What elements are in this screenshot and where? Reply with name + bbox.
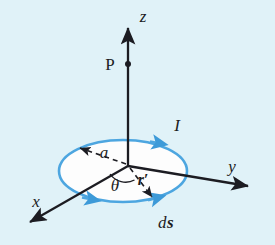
z-axis-label: z [139,7,147,26]
diagram-background [0,0,275,245]
theta-label: θ [111,176,119,195]
r-prime-label: r′ [138,171,149,188]
point-p-label: P [105,55,114,74]
y-axis-label: y [226,157,236,176]
ds-label-d: d [158,213,167,232]
ds-label-s: s [166,213,174,232]
x-axis-label: x [31,192,40,211]
radius-a-label: a [100,143,109,162]
figure-canvas: z y x P a I θ r′ d s [0,0,275,245]
physics-diagram: z y x P a I θ r′ d s [0,0,275,245]
point-p-dot [125,61,131,67]
